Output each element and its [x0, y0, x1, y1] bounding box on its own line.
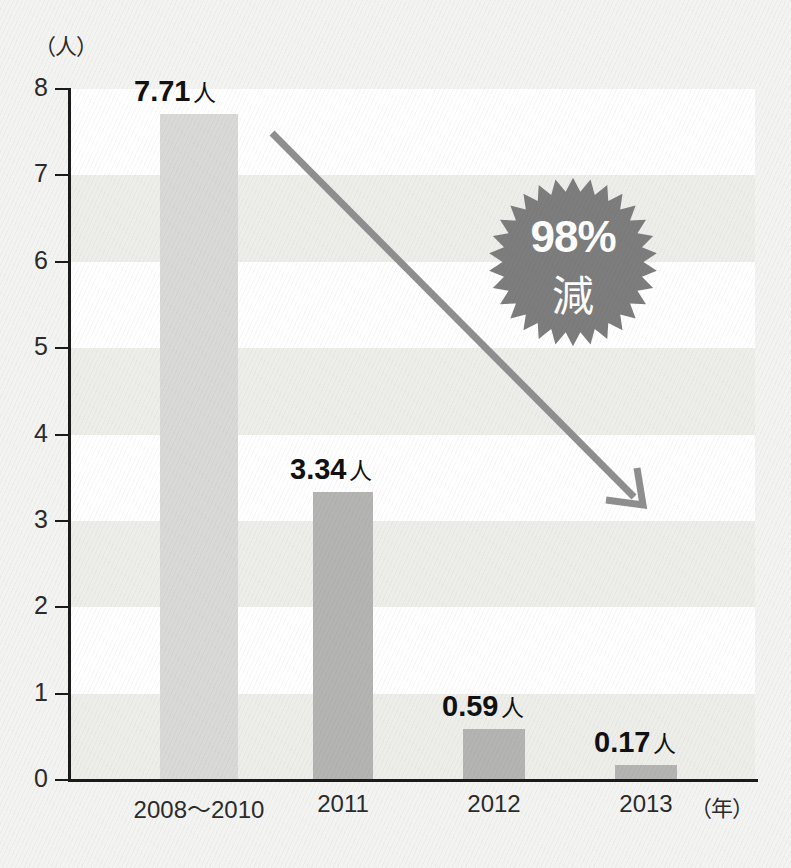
y-axis-tick-label: 0: [18, 764, 48, 793]
y-axis-tick-label: 8: [18, 73, 48, 102]
bar-value-number: 3.34: [290, 453, 346, 485]
bar-value-number: 0.17: [594, 726, 650, 758]
reduction-badge: 98% 減: [487, 176, 659, 348]
y-axis-tick: [55, 261, 69, 263]
y-axis-tick-label: 2: [18, 591, 48, 620]
bar: [313, 492, 373, 780]
y-axis-tick-label: 5: [18, 332, 48, 361]
y-axis-tick-label: 4: [18, 419, 48, 448]
y-axis-tick: [55, 434, 69, 436]
y-axis-tick: [55, 779, 69, 781]
y-axis-tick-label: 7: [18, 159, 48, 188]
bar-value-number: 0.59: [442, 690, 498, 722]
bar-value-label: 0.17人: [594, 725, 676, 759]
chart-figure: （人） （年） 876543210 7.71人2008〜20103.34人201…: [0, 0, 791, 868]
x-axis-category-label: 2013: [586, 790, 706, 818]
bar-value-unit: 人: [501, 695, 524, 721]
y-axis-tick: [55, 174, 69, 176]
bar: [160, 114, 238, 780]
bar-value-unit: 人: [193, 80, 216, 106]
y-axis-tick: [55, 88, 69, 90]
bar: [615, 765, 677, 780]
bar-value-unit: 人: [653, 731, 676, 757]
bar-value-number: 7.71: [134, 75, 190, 107]
y-axis-tick: [55, 520, 69, 522]
y-axis-tick: [55, 606, 69, 608]
bar-value-unit: 人: [349, 458, 372, 484]
x-axis-category-label: 2011: [283, 790, 403, 818]
x-axis-category-label: 2008〜2010: [108, 790, 290, 825]
bar-value-label: 3.34人: [290, 452, 372, 486]
y-axis-unit-label: （人）: [34, 28, 97, 60]
bar-value-label: 0.59人: [442, 689, 524, 723]
y-axis-tick-label: 6: [18, 246, 48, 275]
bar-value-label: 7.71人: [134, 74, 216, 108]
bar: [463, 729, 525, 780]
x-axis-line: [68, 779, 758, 782]
x-axis-category-label: 2012: [434, 790, 554, 818]
y-axis-tick-label: 1: [18, 678, 48, 707]
y-axis-tick: [55, 347, 69, 349]
y-axis-tick-label: 3: [18, 505, 48, 534]
y-axis-tick: [55, 693, 69, 695]
starburst-icon: [487, 176, 659, 348]
